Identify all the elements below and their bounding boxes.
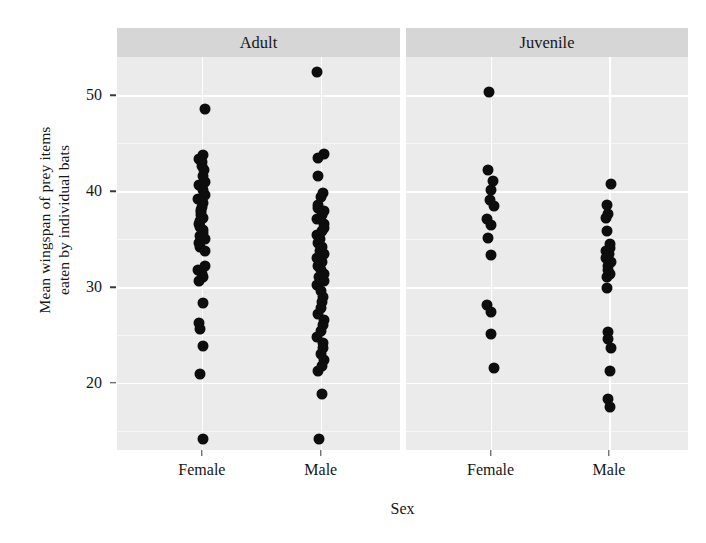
data-point — [489, 362, 500, 373]
y-tick-mark — [110, 95, 116, 97]
data-point — [313, 434, 324, 445]
x-tick-label: Female — [178, 461, 225, 479]
x-tick-mark — [490, 450, 491, 456]
x-tick-mark — [608, 450, 609, 456]
y-tick-mark — [110, 382, 116, 384]
data-point — [316, 389, 327, 400]
data-point — [313, 366, 324, 377]
x-tick-label: Male — [304, 461, 337, 479]
data-point — [485, 250, 496, 261]
facet-strip-label: Adult — [240, 33, 278, 53]
grid-line-major — [406, 287, 688, 289]
grid-line-minor — [117, 431, 400, 432]
data-point — [484, 86, 495, 97]
data-point — [605, 401, 616, 412]
facet-strip-label: Juvenile — [520, 33, 575, 53]
x-tick-label: Female — [467, 461, 514, 479]
y-axis-title-line-1: Mean wingspan of prey items — [35, 127, 54, 314]
data-point — [601, 226, 612, 237]
y-tick-label: 30 — [62, 278, 102, 296]
data-point — [489, 200, 500, 211]
data-point — [482, 165, 493, 176]
data-point — [605, 366, 616, 377]
grid-line-minor — [117, 239, 400, 240]
grid-line-major — [117, 287, 400, 289]
data-point — [194, 369, 205, 380]
data-point — [312, 170, 323, 181]
x-tick-mark — [201, 450, 202, 456]
grid-line-major — [117, 383, 400, 385]
x-tick-mark — [320, 450, 321, 456]
grid-line-minor — [406, 239, 688, 240]
data-point — [198, 298, 209, 309]
data-point — [601, 272, 612, 283]
data-point — [194, 324, 205, 335]
data-point — [485, 219, 496, 230]
facet-strip-juvenile: Juvenile — [406, 28, 688, 57]
grid-line-minor — [406, 335, 688, 336]
grid-line-major — [117, 95, 400, 97]
y-tick-mark — [110, 286, 116, 288]
grid-line-major — [406, 95, 688, 97]
data-point — [601, 283, 612, 294]
data-point — [312, 67, 323, 78]
panel-juvenile — [406, 57, 688, 450]
data-point — [199, 245, 210, 256]
dotplot-figure: Mean wingspan of prey items eaten by ind… — [0, 0, 706, 543]
data-point — [200, 103, 211, 114]
grid-line-major — [117, 191, 400, 193]
y-tick-label: 40 — [62, 182, 102, 200]
grid-line-minor — [117, 143, 400, 144]
grid-line-minor — [406, 143, 688, 144]
data-point — [198, 341, 209, 352]
grid-line-major — [406, 383, 688, 385]
x-axis-title: Sex — [117, 500, 688, 518]
data-point — [605, 343, 616, 354]
grid-line-minor — [406, 431, 688, 432]
facet-strip-adult: Adult — [117, 28, 400, 57]
data-point — [482, 233, 493, 244]
data-point — [601, 213, 612, 224]
data-point — [485, 306, 496, 317]
x-tick-label: Male — [593, 461, 626, 479]
data-point — [485, 329, 496, 340]
y-tick-label: 50 — [62, 86, 102, 104]
data-point — [312, 152, 323, 163]
y-tick-label: 20 — [62, 374, 102, 392]
data-point — [193, 276, 204, 287]
grid-line-major — [406, 191, 688, 193]
grid-line-minor — [117, 335, 400, 336]
y-tick-mark — [110, 190, 116, 192]
panel-adult — [117, 57, 400, 450]
data-point — [198, 434, 209, 445]
data-point — [606, 179, 617, 190]
